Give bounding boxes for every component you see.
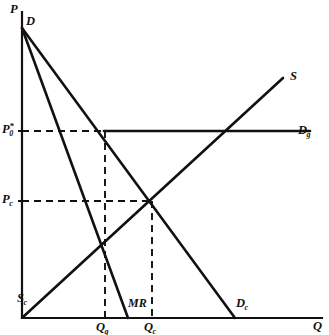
economics-diagram: P Q D S Dg Dc Sc MR P0* Pc Qg Qc <box>0 0 329 335</box>
competitive-supply-subscript: c <box>23 298 27 307</box>
pc-subscript: c <box>9 199 13 208</box>
price-tick-label-p0-star: P0* <box>2 123 18 136</box>
curves-group <box>22 28 310 318</box>
demand-apex-label: D <box>26 15 35 28</box>
government-demand-base: D <box>298 123 307 137</box>
supply-curve <box>23 78 283 317</box>
price-tick-label-pc: Pc <box>2 193 13 206</box>
competitive-demand-curve <box>22 28 235 318</box>
y-axis-label: P <box>10 3 18 16</box>
qg-subscript: g <box>105 327 109 335</box>
qg-base: Q <box>96 320 105 334</box>
marginal-revenue-curve <box>22 28 128 318</box>
competitive-demand-base: D <box>236 296 245 310</box>
diagram-canvas <box>0 0 329 335</box>
government-demand-subscript: g <box>307 130 311 139</box>
qc-subscript: c <box>153 327 157 335</box>
government-demand-label: Dg <box>298 124 311 137</box>
competitive-demand-subscript: c <box>245 303 249 312</box>
guide-lines-group <box>22 131 153 317</box>
x-axis-label: Q <box>313 320 322 333</box>
supply-curve-label: S <box>290 70 297 83</box>
qc-base: Q <box>144 320 153 334</box>
quantity-tick-label-qg: Qg <box>96 321 109 334</box>
quantity-tick-label-qc: Qc <box>144 321 157 334</box>
competitive-demand-label: Dc <box>236 297 249 310</box>
marginal-revenue-label: MR <box>128 297 147 309</box>
competitive-supply-label: Sc <box>17 292 28 305</box>
p0-superscript: * <box>10 121 15 131</box>
axis-group <box>22 12 322 318</box>
